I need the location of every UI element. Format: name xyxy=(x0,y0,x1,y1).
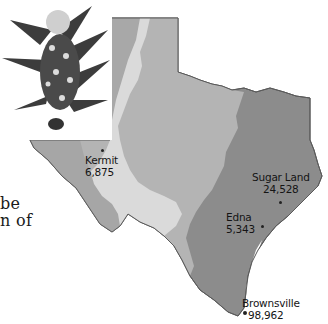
city-name: Sugar Land xyxy=(252,171,310,183)
city-population: 5,343 xyxy=(226,223,255,235)
body-text-line-2: n of xyxy=(0,212,32,229)
body-text-line-1: be xyxy=(0,195,20,212)
city-name: Brownsville xyxy=(242,297,300,309)
city-population: 24,528 xyxy=(252,183,310,195)
kermit-dot xyxy=(101,149,104,152)
city-label-kermit: Kermit 6,875 xyxy=(85,154,118,178)
edna-dot xyxy=(261,225,264,228)
brownsville-dot xyxy=(243,311,247,315)
city-name: Kermit xyxy=(85,154,118,166)
city-name: Edna xyxy=(226,211,255,223)
city-label-brownsville: Brownsville 98,962 xyxy=(242,297,300,321)
city-population: 6,875 xyxy=(85,166,118,178)
sugar-land-dot xyxy=(279,201,282,204)
city-population: 98,962 xyxy=(242,309,300,321)
city-label-edna: Edna 5,343 xyxy=(226,211,255,235)
city-label-sugar-land: Sugar Land 24,528 xyxy=(252,171,310,195)
bluebonnet-photo xyxy=(0,0,112,140)
figure: be n of Kermit 6,875 Sugar Land 24,528 E… xyxy=(0,0,328,324)
